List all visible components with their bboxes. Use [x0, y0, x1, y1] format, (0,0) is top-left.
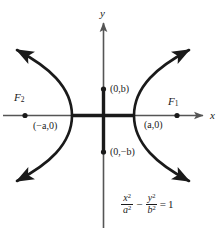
y-axis-label: y — [100, 8, 105, 19]
right-branch-upper — [134, 50, 189, 116]
focus-right-label: F1 — [168, 96, 178, 108]
equation-num2: y2 — [146, 193, 158, 205]
focus-right-letter: F — [168, 95, 175, 107]
hyperbola-equation: x2 a2 − y2 b2 = 1 — [121, 193, 173, 215]
left-branch-upper — [17, 50, 72, 116]
covertex-top-point — [101, 86, 106, 91]
equation-den2: b2 — [145, 205, 157, 216]
covertex-bottom-label: (0,−b) — [110, 147, 135, 157]
focus-right-point — [174, 113, 179, 118]
focus-left-label: F2 — [14, 92, 24, 104]
focus-right-subscript: 1 — [175, 99, 179, 108]
covertex-bottom-point — [101, 149, 106, 154]
equation-second-fraction: y2 b2 — [145, 193, 157, 215]
vertex-right-label: (a,0) — [144, 120, 163, 130]
focus-left-letter: F — [14, 91, 21, 103]
equation-den1-exponent: 2 — [128, 204, 131, 211]
hyperbola-figure: y x F1 F2 (a,0) (−a,0) (0,b) (0,−b) x2 a… — [0, 0, 222, 233]
vertex-left-label: (−a,0) — [33, 121, 57, 131]
equation-operator: − — [135, 198, 143, 210]
graph-canvas — [0, 0, 222, 233]
covertex-top-label: (0,b) — [110, 84, 129, 94]
focus-left-subscript: 2 — [21, 95, 25, 104]
equation-den2-exponent: 2 — [152, 204, 155, 211]
equation-equals: = — [160, 198, 166, 210]
equation-num1-exponent: 2 — [128, 192, 131, 199]
x-axis-label: x — [210, 110, 215, 121]
equation-den1: a2 — [121, 205, 133, 216]
equation-num1: x2 — [121, 193, 133, 205]
focus-left-point — [22, 113, 27, 118]
equation-rhs: 1 — [168, 198, 174, 210]
equation-num2-exponent: 2 — [152, 192, 155, 199]
equation-first-fraction: x2 a2 — [121, 193, 133, 215]
